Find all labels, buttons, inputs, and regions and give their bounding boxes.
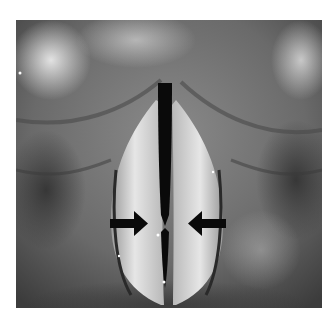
laryngoscopy-photo <box>16 20 322 308</box>
